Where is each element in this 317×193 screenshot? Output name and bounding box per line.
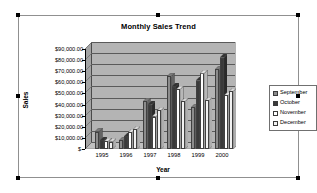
- selection-handle-middle-left[interactable]: [16, 94, 20, 98]
- plot-area[interactable]: [85, 42, 235, 149]
- y-axis-tick-mark: [82, 149, 85, 150]
- bar-top-face: [181, 98, 189, 102]
- y-axis-tick-mark: [82, 60, 85, 61]
- y-axis-title[interactable]: Sales: [22, 92, 29, 109]
- bar[interactable]: [133, 129, 137, 149]
- bar-top-face: [167, 73, 175, 77]
- bar-top-face: [133, 126, 141, 130]
- y-axis-tick-mark: [82, 138, 85, 139]
- legend-swatch-icon: [273, 121, 278, 126]
- selection-handle-top-left[interactable]: [16, 13, 20, 17]
- bar-top-face: [109, 138, 117, 142]
- legend-label: December: [280, 120, 306, 126]
- legend-swatch-icon: [273, 111, 278, 116]
- y-axis-tick-mark: [82, 105, 85, 106]
- bar-top-face: [157, 107, 165, 111]
- legend-label: September: [280, 90, 307, 96]
- x-axis-tick-label: 1999: [192, 152, 205, 158]
- selection-handle-top-middle[interactable]: [156, 13, 160, 17]
- x-axis-tick-label: 2000: [216, 152, 229, 158]
- bar-top-face: [220, 54, 228, 58]
- x-axis-title[interactable]: Year: [85, 166, 241, 173]
- y-axis-tick-labels[interactable]: $-$10,000.00$20,000.00$30,000.00$40,000.…: [33, 42, 85, 149]
- y-axis-tick-label: $20,000.00: [55, 124, 83, 130]
- legend-swatch-icon: [273, 101, 278, 106]
- y-axis-tick-mark: [82, 116, 85, 117]
- legend-item[interactable]: December: [273, 118, 314, 128]
- legend-item[interactable]: October: [273, 98, 314, 108]
- bar-top-face: [200, 70, 208, 74]
- selection-handle-bottom-middle[interactable]: [156, 176, 160, 180]
- chart-title[interactable]: Monthly Sales Trend: [19, 22, 298, 31]
- x-axis-tick-labels[interactable]: 199519961997199819992000: [85, 152, 241, 164]
- bar-top-face: [229, 88, 237, 92]
- bar-top-face: [176, 86, 184, 90]
- y-axis-tick-label: $70,000.00: [55, 68, 83, 74]
- legend-label: October: [280, 100, 300, 106]
- y-axis-tick-label: $90,000.00: [55, 46, 83, 52]
- bar-side-face: [161, 107, 165, 149]
- chart-legend[interactable]: SeptemberOctoberNovemberDecember: [269, 85, 317, 131]
- y-axis-tick-label: $60,000.00: [55, 79, 83, 85]
- y-axis-tick-label: $10,000.00: [55, 135, 83, 141]
- screenshot-root: Monthly Sales Trend Sales $-$10,000.00$2…: [0, 0, 317, 193]
- legend-swatch-icon: [273, 91, 278, 96]
- y-axis-tick-mark: [82, 49, 85, 50]
- bar-side-face: [233, 88, 237, 149]
- y-axis-tick-label: $80,000.00: [55, 57, 83, 63]
- bar-side-face: [209, 97, 213, 149]
- bar[interactable]: [229, 91, 233, 149]
- bars-layer[interactable]: [85, 42, 235, 149]
- selection-handle-middle-right[interactable]: [296, 94, 300, 98]
- y-axis-tick-mark: [82, 127, 85, 128]
- bar-top-face: [148, 101, 156, 105]
- bar[interactable]: [205, 100, 209, 149]
- bar[interactable]: [109, 142, 113, 149]
- chart-object[interactable]: Monthly Sales Trend Sales $-$10,000.00$2…: [18, 15, 299, 178]
- legend-label: November: [280, 110, 306, 116]
- y-axis-tick-label: $30,000.00: [55, 113, 83, 119]
- x-axis-tick-label: 1998: [168, 152, 181, 158]
- y-axis-tick-label: $50,000.00: [55, 90, 83, 96]
- y-axis-tick-mark: [82, 71, 85, 72]
- y-axis-tick-mark: [82, 82, 85, 83]
- y-axis-line: [85, 49, 86, 149]
- selection-handle-bottom-right[interactable]: [296, 176, 300, 180]
- x-axis-tick-label: 1996: [120, 152, 133, 158]
- bar[interactable]: [181, 101, 185, 149]
- legend-item[interactable]: September: [273, 88, 314, 98]
- y-axis-tick-label: $40,000.00: [55, 102, 83, 108]
- selection-handle-top-right[interactable]: [296, 13, 300, 17]
- selection-handle-bottom-left[interactable]: [16, 176, 20, 180]
- bar-top-face: [95, 128, 103, 132]
- y-axis-tick-mark: [82, 93, 85, 94]
- bar-top-face: [205, 97, 213, 101]
- bar[interactable]: [157, 110, 161, 149]
- x-axis-tick-label: 1995: [96, 152, 109, 158]
- legend-item[interactable]: November: [273, 108, 314, 118]
- bar-side-face: [185, 98, 189, 149]
- x-axis-tick-label: 1997: [144, 152, 157, 158]
